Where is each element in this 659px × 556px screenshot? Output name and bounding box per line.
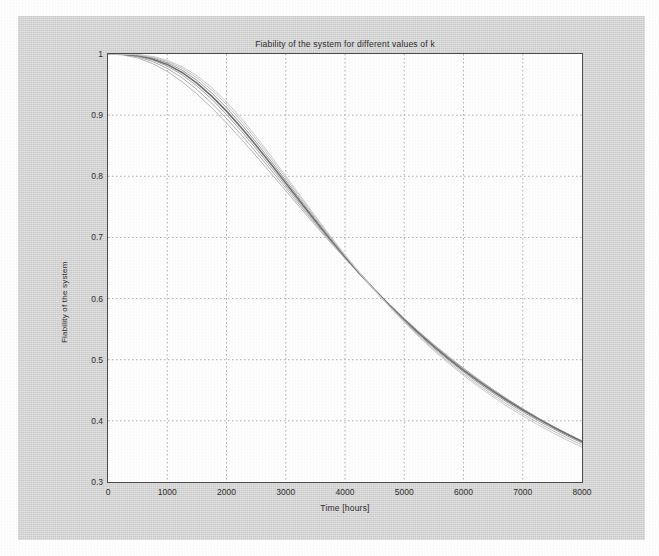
x-tick-label: 8000 bbox=[557, 487, 607, 497]
x-tick-label: 5000 bbox=[379, 487, 429, 497]
chart-axes: Fiability of the system for different va… bbox=[107, 53, 583, 483]
chart-title: Fiability of the system for different va… bbox=[107, 39, 583, 49]
x-tick-label: 1000 bbox=[142, 487, 192, 497]
x-tick-label: 7000 bbox=[498, 487, 548, 497]
series-line bbox=[108, 54, 582, 442]
x-tick-label: 3000 bbox=[261, 487, 311, 497]
series-line bbox=[108, 54, 582, 443]
x-tick-label: 6000 bbox=[439, 487, 489, 497]
x-tick-label: 2000 bbox=[202, 487, 252, 497]
chart-canvas bbox=[108, 54, 582, 482]
y-tick-label: 0.6 bbox=[63, 294, 103, 304]
y-tick-label: 0.5 bbox=[63, 355, 103, 365]
y-tick-label: 0.7 bbox=[63, 232, 103, 242]
figure-window: Fiability of the system for different va… bbox=[18, 16, 645, 540]
y-tick-label: 0.4 bbox=[63, 416, 103, 426]
y-tick-label: 0.8 bbox=[63, 171, 103, 181]
y-tick-label: 0.9 bbox=[63, 110, 103, 120]
x-axis-label: Time [hours] bbox=[107, 503, 583, 513]
x-tick-label: 0 bbox=[83, 487, 133, 497]
grid-lines bbox=[108, 54, 582, 482]
y-tick-label: 0.3 bbox=[63, 477, 103, 487]
plot-area bbox=[107, 53, 583, 483]
y-tick-label: 1 bbox=[63, 49, 103, 59]
x-tick-label: 4000 bbox=[320, 487, 370, 497]
series-line bbox=[108, 54, 582, 442]
